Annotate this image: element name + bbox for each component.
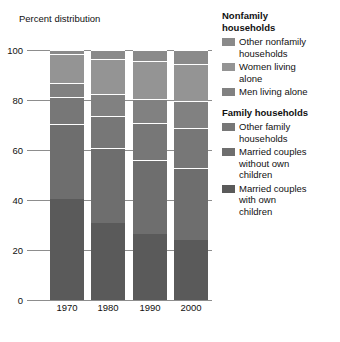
bar-segment (50, 54, 84, 83)
x-axis-tick-1980: 1980 (91, 302, 125, 313)
bar-segment (50, 124, 84, 200)
bar-segment (133, 123, 167, 160)
legend-item[interactable]: Other familyhouseholds (222, 121, 340, 144)
bar-segment (91, 59, 125, 94)
x-axis-tick-1990: 1990 (133, 302, 167, 313)
bar-segment (133, 99, 167, 123)
bar-segment (174, 128, 208, 168)
legend-swatch-icon (222, 63, 235, 71)
plot-area: 0204060801001970198019902000 (46, 50, 212, 300)
bar-segment (91, 116, 125, 148)
bar-segment (50, 97, 84, 124)
bar-segment (91, 148, 125, 223)
gridline-0: 0 (27, 300, 212, 301)
legend-group-heading: Family households (222, 107, 340, 119)
bar-segment (133, 160, 167, 234)
bar-segment (91, 50, 125, 59)
y-axis-tick-20: 20 (12, 245, 23, 256)
legend-swatch-icon (222, 185, 235, 193)
chart-title: Percent distribution (19, 13, 100, 24)
legend-item-label: Married coupleswith ownchildren (239, 183, 307, 218)
legend-item-label: Other nonfamilyhouseholds (239, 36, 306, 59)
y-axis-tick-0: 0 (18, 295, 23, 306)
bar-segment (91, 223, 125, 300)
chart-container: Percent distribution 0204060801001970198… (0, 0, 215, 342)
bar-segment (174, 101, 208, 128)
y-axis-tick-40: 40 (12, 195, 23, 206)
legend-item[interactable]: Other nonfamilyhouseholds (222, 36, 340, 59)
bar-segment (133, 234, 167, 300)
legend-swatch-icon (222, 88, 235, 96)
bar-segment (174, 64, 208, 101)
x-axis-tick-2000: 2000 (174, 302, 208, 313)
bar-1980 (91, 50, 125, 300)
legend-item-label: Other familyhouseholds (239, 121, 290, 144)
bar-2000 (174, 50, 208, 300)
legend-group-heading: Nonfamilyhouseholds (222, 10, 340, 33)
bar-1970 (50, 50, 84, 300)
legend-group: Family householdsOther familyhouseholdsM… (222, 107, 340, 218)
x-axis-tick-1970: 1970 (50, 302, 84, 313)
legend-item[interactable]: Women livingalone (222, 61, 340, 84)
y-axis-tick-60: 60 (12, 145, 23, 156)
legend-item-label: Married coupleswithout ownchildren (239, 146, 307, 181)
legend-group: NonfamilyhouseholdsOther nonfamilyhouseh… (222, 10, 340, 98)
chart-legend: NonfamilyhouseholdsOther nonfamilyhouseh… (222, 10, 340, 224)
bar-segment (50, 83, 84, 97)
legend-item[interactable]: Married coupleswith ownchildren (222, 183, 340, 218)
legend-swatch-icon (222, 148, 235, 156)
legend-item-label: Men living alone (239, 86, 308, 98)
bar-segment (133, 50, 167, 61)
legend-swatch-icon (222, 38, 235, 46)
y-axis-tick-100: 100 (7, 45, 23, 56)
legend-item-label: Women livingalone (239, 61, 296, 84)
y-axis-tick-80: 80 (12, 95, 23, 106)
bar-segment (174, 240, 208, 300)
legend-swatch-icon (222, 123, 235, 131)
legend-item[interactable]: Men living alone (222, 86, 340, 98)
bar-segment (50, 199, 84, 300)
bar-1990 (133, 50, 167, 300)
bar-segment (174, 50, 208, 64)
bar-segment (133, 61, 167, 98)
legend-item[interactable]: Married coupleswithout ownchildren (222, 146, 340, 181)
bar-segment (91, 94, 125, 116)
bar-segment (174, 168, 208, 240)
